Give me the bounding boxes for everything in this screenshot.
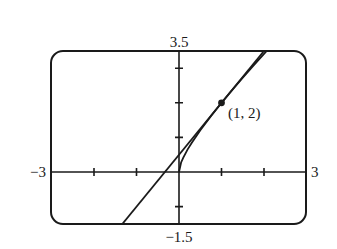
ymax-label: 3.5 <box>170 34 189 50</box>
tangent-point-marker <box>218 99 225 106</box>
xmin-label: −3 <box>30 164 46 180</box>
point-label: (1, 2) <box>228 105 261 122</box>
xmax-label: 3 <box>311 164 319 180</box>
ymin-label: −1.5 <box>165 229 192 245</box>
chart-canvas: (1, 2) 3.5 −1.5 −3 3 <box>0 0 337 249</box>
